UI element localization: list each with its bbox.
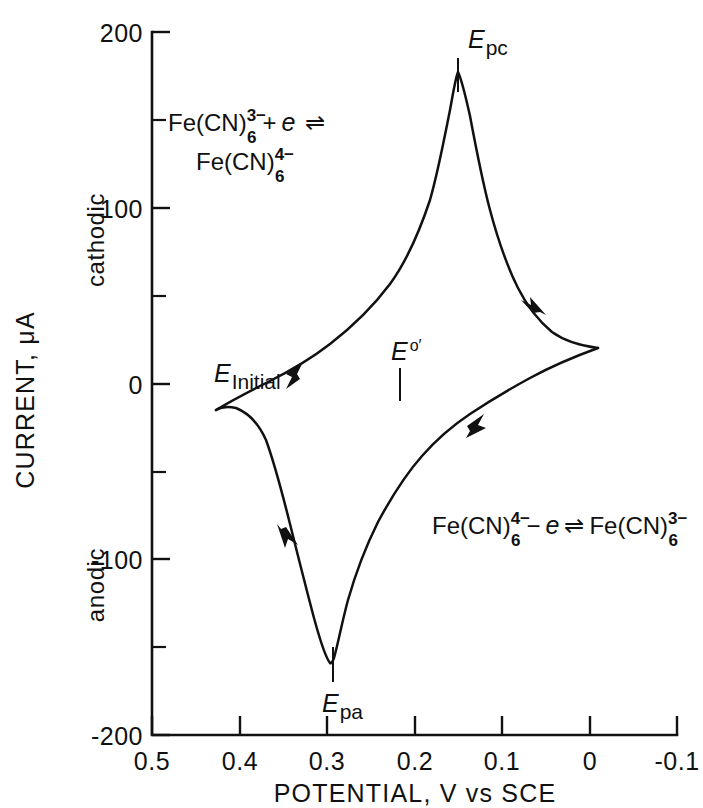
- y-tick-labels: 200 100 0 -100 -200: [91, 19, 143, 750]
- x-tick-labels: 0.5 0.4 0.3 0.2 0.1 0 -0.1: [134, 747, 700, 775]
- e-formal-symbol: E: [391, 337, 408, 365]
- oxidation-electron: e: [546, 511, 560, 539]
- reduction-equation: Fe(CN)3−6+e⇌ Fe(CN)4−6: [168, 106, 325, 186]
- initial-potential-label: EInitial: [214, 359, 281, 393]
- e-initial-symbol: E: [214, 359, 231, 387]
- epa-label-subscript: pa: [340, 700, 364, 723]
- x-label-0.5: 0.5: [134, 747, 170, 775]
- svg-text:Epa: Epa: [322, 689, 363, 723]
- oxidation-equilibrium-arrow: ⇌: [564, 512, 584, 539]
- y-label-0: 0: [129, 371, 143, 399]
- oxidation-species-b: Fe(CN): [589, 512, 668, 539]
- y-label-200: 200: [100, 19, 143, 47]
- y-region-label-cathodic: cathodic: [82, 193, 109, 287]
- epa-label: Epa: [322, 689, 363, 723]
- y-axis-ticks: [152, 32, 170, 735]
- e-formal-superscript: o′: [410, 337, 422, 354]
- y-label-neg200: -200: [91, 722, 143, 750]
- reverse-anodic-scan: [216, 348, 598, 663]
- epa-label-symbol: E: [322, 689, 339, 717]
- reduction-equation-line1: Fe(CN)3−6+e⇌: [168, 106, 325, 147]
- reduction-species-b-charge: 4−: [275, 145, 294, 164]
- scan-direction-arrows: [277, 297, 546, 548]
- forward-scan-arrow-icon: [286, 362, 303, 389]
- reduction-species-a: Fe(CN): [168, 109, 247, 136]
- epc-label: Epc: [468, 25, 508, 59]
- x-label-0: 0: [583, 747, 597, 775]
- reduction-equilibrium-arrow: ⇌: [305, 109, 325, 136]
- formal-potential-label: Eo′: [391, 337, 422, 365]
- oxidation-species-b-count: 6: [668, 531, 677, 550]
- x-axis-title: POTENTIAL, V vs SCE: [274, 779, 557, 807]
- svg-text:Epc: Epc: [468, 25, 508, 59]
- x-axis-ticks: [152, 716, 677, 735]
- epc-label-symbol: E: [468, 25, 485, 53]
- svg-text:Eo′: Eo′: [391, 337, 422, 365]
- oxidation-minus-sign: −: [527, 512, 541, 539]
- chart-svg: 200 100 0 -100 -200 0.5 0.4 0.3 0.2 0.1 …: [0, 0, 703, 808]
- oxidation-species-a-count: 6: [511, 531, 520, 550]
- reduction-plus-sign: +: [263, 109, 277, 136]
- oxidation-species-b-charge: 3−: [668, 509, 687, 528]
- oxidation-equation-line: Fe(CN)4−6−e⇌Fe(CN)3−6: [432, 509, 688, 550]
- e-initial-subscript: Initial: [232, 370, 281, 393]
- x-label-0.1: 0.1: [484, 747, 520, 775]
- epc-label-subscript: pc: [486, 36, 508, 59]
- reduction-electron: e: [282, 108, 296, 136]
- reduction-species-b-count: 6: [275, 167, 284, 186]
- y-axis-title: CURRENT, μA: [11, 311, 39, 489]
- x-label-0.4: 0.4: [222, 747, 258, 775]
- oxidation-species-a: Fe(CN): [432, 512, 511, 539]
- svg-text:EInitial: EInitial: [214, 359, 281, 393]
- reduction-equation-line2: Fe(CN)4−6: [196, 145, 294, 186]
- cyclic-voltammogram-figure: 200 100 0 -100 -200 0.5 0.4 0.3 0.2 0.1 …: [0, 0, 703, 808]
- reduction-species-a-count: 6: [247, 128, 256, 147]
- reverse-scan-arrow-icon: [466, 414, 486, 438]
- x-label-0.3: 0.3: [309, 747, 345, 775]
- x-label-neg0.1: -0.1: [654, 747, 699, 775]
- y-region-label-anodic: anodic: [82, 548, 109, 622]
- oxidation-equation: Fe(CN)4−6−e⇌Fe(CN)3−6: [432, 509, 688, 550]
- reduction-species-b: Fe(CN): [196, 148, 275, 175]
- x-label-0.2: 0.2: [397, 747, 433, 775]
